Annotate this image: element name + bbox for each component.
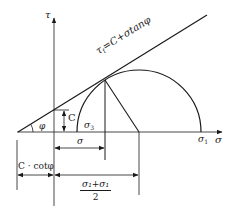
mohr-circle: [77, 70, 201, 132]
phi-angle-arc: [31, 124, 33, 132]
sigma-axis-label: σ: [215, 135, 222, 145]
fraction-denominator: 2: [80, 191, 111, 202]
sigma1-label: σ1: [198, 135, 208, 145]
phi-label: φ: [39, 122, 45, 131]
half-sum-fraction: σ₁+σ₁ 2: [80, 179, 111, 202]
sigma1-sub: 1: [204, 138, 208, 145]
radius-line: [105, 80, 139, 132]
fraction-numerator: σ₁+σ₁: [80, 179, 111, 191]
sigma3-label: σ3: [84, 121, 94, 131]
mohr-coulomb-diagram: τ σ τf=C+σtanφ φ C σ3 σ1 σ C · cotφ σ₁+σ…: [0, 0, 235, 219]
failure-envelope-line: [18, 15, 207, 132]
sigma3-sub: 3: [90, 124, 94, 131]
c-cot-phi-label: C · cotφ: [18, 162, 54, 171]
tau-axis-label: τ: [45, 10, 51, 20]
sigma-dimension-label: σ: [77, 137, 83, 146]
cohesion-label: C: [68, 113, 76, 123]
